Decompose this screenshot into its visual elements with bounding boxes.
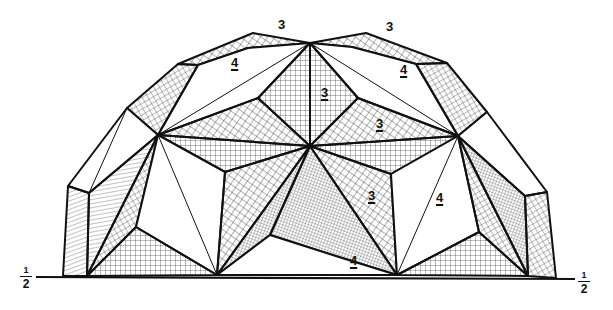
- face-label: 3: [321, 86, 328, 99]
- ground-mark-right: 1 2: [578, 271, 590, 295]
- face-label: 3: [368, 189, 375, 202]
- face-label: 3: [278, 18, 285, 31]
- ground-mark-denominator: 2: [578, 282, 590, 295]
- face-label: 4: [231, 56, 238, 69]
- ground-mark-numerator: 1: [20, 266, 32, 277]
- geodesic-dome-drawing: [0, 0, 613, 310]
- dome-faces: [63, 33, 556, 278]
- ground-mark-denominator: 2: [20, 277, 32, 290]
- ground-line: [36, 277, 575, 279]
- ground-mark-left: 1 2: [20, 266, 32, 290]
- face-label: 4: [436, 191, 443, 204]
- ground-mark-numerator: 1: [578, 271, 590, 282]
- face-label: 4: [350, 254, 357, 267]
- face-label: 4: [400, 63, 407, 76]
- face-label: 3: [376, 117, 383, 130]
- face-label: 3: [386, 20, 393, 33]
